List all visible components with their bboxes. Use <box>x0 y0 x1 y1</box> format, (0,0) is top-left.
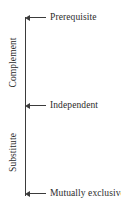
left-arrow-icon <box>25 191 30 197</box>
left-arrow-icon <box>25 15 30 21</box>
axis-node-independent: Independent <box>25 100 98 111</box>
arrow-shaft <box>30 193 46 194</box>
axis-node-mutually-exclusive: Mutually exclusive <box>25 188 121 199</box>
left-arrow-icon <box>25 103 30 109</box>
relationship-spectrum-diagram: Prerequisite Independent Mutually exclus… <box>0 0 121 212</box>
arrow-shaft <box>30 105 46 106</box>
axis-label-mutually-exclusive: Mutually exclusive <box>50 188 121 199</box>
axis-label-independent: Independent <box>50 100 98 111</box>
axis-node-prerequisite: Prerequisite <box>25 12 97 23</box>
axis-label-prerequisite: Prerequisite <box>50 12 97 23</box>
arrow-shaft <box>30 17 46 18</box>
range-bracket-substitute: Substitute <box>8 114 19 190</box>
range-label-substitute: Substitute <box>8 132 19 171</box>
range-label-complement: Complement <box>8 37 19 87</box>
range-bracket-complement: Complement <box>8 24 19 100</box>
